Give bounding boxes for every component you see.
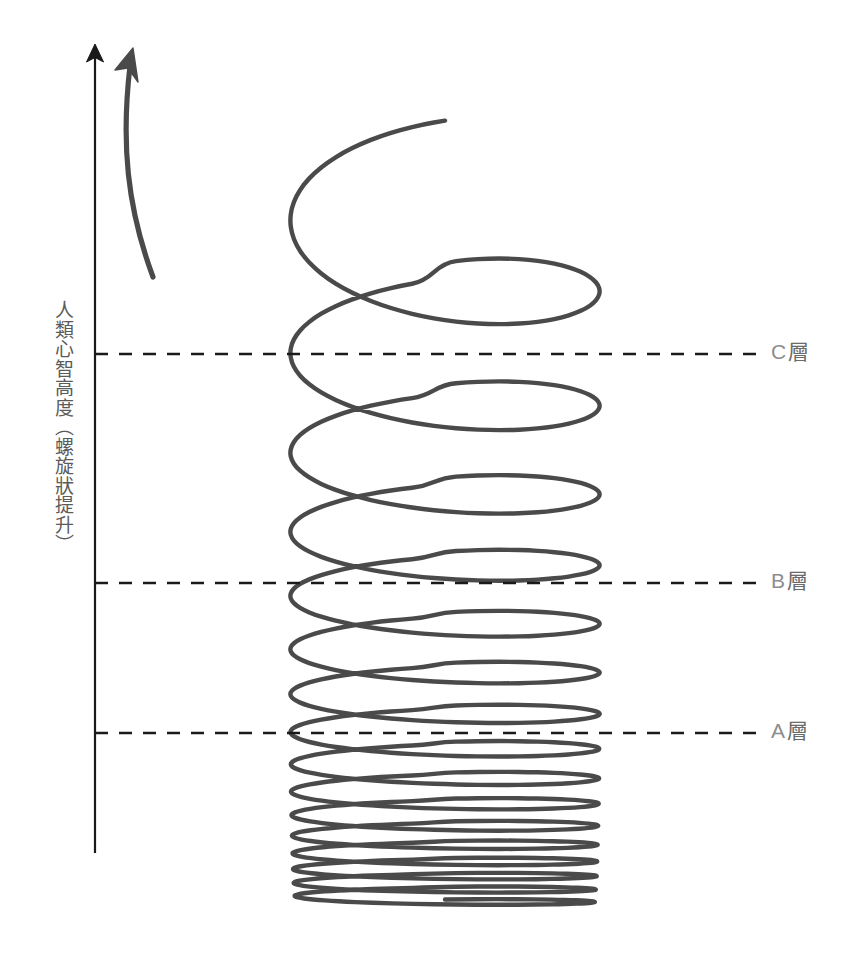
spiral-diagram-svg — [0, 0, 858, 953]
layer-label-c-suffix: 層 — [788, 340, 811, 363]
layer-label-b-suffix: 層 — [787, 569, 810, 592]
layer-label-a-suffix: 層 — [787, 719, 810, 742]
layer-reference-lines — [95, 354, 762, 733]
layer-label-b: B層 — [771, 570, 810, 591]
spiral-path-group — [126, 66, 600, 905]
layer-label-a: A層 — [771, 720, 810, 741]
y-axis-title: 人類心智高度（螺旋狀提升） — [38, 300, 72, 554]
spiral-arrow-tail — [126, 66, 153, 277]
layer-label-c: C層 — [771, 341, 811, 362]
vertical-axis — [87, 44, 104, 853]
layer-label-a-letter: A — [771, 719, 787, 742]
diagram-canvas: 人類心智高度（螺旋狀提升） C層 B層 A層 — [0, 0, 858, 953]
layer-label-b-letter: B — [771, 569, 787, 592]
spiral-path — [290, 121, 599, 905]
layer-label-c-letter: C — [771, 340, 788, 363]
